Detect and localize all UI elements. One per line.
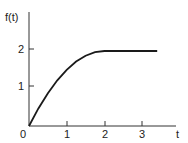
y-tick-label-2: 2 bbox=[18, 44, 24, 55]
origin-label: 0 bbox=[20, 129, 26, 140]
x-tick-label-1: 1 bbox=[64, 129, 70, 140]
data-line bbox=[29, 51, 157, 126]
y-tick-label-1: 1 bbox=[18, 81, 24, 92]
x-tick-label-2: 2 bbox=[102, 129, 108, 140]
chart-plot bbox=[0, 0, 188, 143]
x-axis-label: t bbox=[176, 129, 179, 140]
x-tick-label-3: 3 bbox=[139, 129, 145, 140]
y-axis-label: f(t) bbox=[5, 12, 18, 23]
